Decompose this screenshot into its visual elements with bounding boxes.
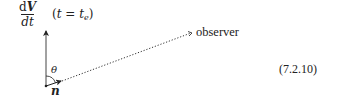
normal-label: n [51,84,60,97]
line-of-sight-dotted [62,33,191,81]
equation-number: (7.2.10) [279,62,317,77]
fraction-denominator: dt [21,14,34,28]
condition-equals: = [62,7,80,21]
paren-close: ) [89,7,94,21]
theta-label: θ [51,64,57,75]
numerator-d: d [19,0,27,14]
dvdt-fraction: dV dt [18,1,37,28]
time-condition: (t = te) [52,7,93,22]
numerator-V: V [27,0,36,14]
diagram-canvas [0,0,337,97]
observer-label: observer [196,25,239,40]
origin-point [45,85,48,88]
theta-arc [46,76,56,83]
denominator-dt: dt [21,15,34,29]
fraction-numerator: dV [18,1,37,14]
